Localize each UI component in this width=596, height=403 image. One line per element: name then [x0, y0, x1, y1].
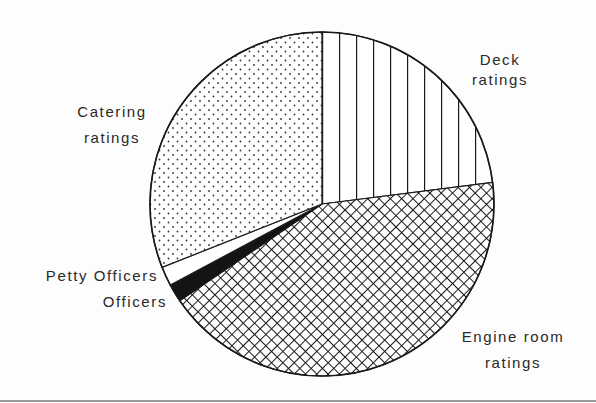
label-petty-line1: Petty Officers: [20, 266, 158, 286]
bottom-rule: [0, 400, 596, 402]
label-petty-officers: Petty Officers: [20, 266, 158, 286]
label-deck-line1: Deck: [460, 50, 540, 70]
label-catering-ratings: Catering ratings: [62, 102, 162, 148]
label-engine-line2: ratings: [448, 353, 578, 373]
label-engine-room-ratings: Engine room ratings: [448, 327, 578, 373]
label-deck-line2: ratings: [460, 70, 540, 90]
label-officers-line1: Officers: [60, 292, 167, 312]
label-officers: Officers: [60, 292, 167, 312]
pie-slices: [150, 32, 494, 376]
label-deck-ratings: Deck ratings: [460, 50, 540, 90]
label-catering-line2: ratings: [62, 128, 162, 148]
label-engine-line1: Engine room: [448, 327, 578, 347]
label-catering-line1: Catering: [62, 102, 162, 122]
